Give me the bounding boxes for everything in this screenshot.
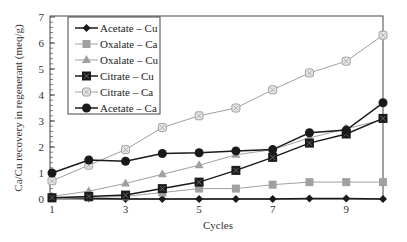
x-tick-label: 5 xyxy=(196,203,202,215)
line-chart: 01234567 13579 Acetate – CuOxalate – CaO… xyxy=(0,0,407,242)
y-tick-label: 5 xyxy=(39,63,45,75)
series-oxalate-cu xyxy=(48,115,388,200)
legend-label: Oxalate – Cu xyxy=(100,54,159,66)
x-tick-label: 9 xyxy=(343,203,349,215)
legend-label: Oxalate – Ca xyxy=(100,38,158,50)
legend-circle-x-light-icon xyxy=(83,88,91,96)
y-tick-label: 3 xyxy=(39,115,45,127)
y-tick-label: 0 xyxy=(39,193,45,205)
y-tick-label: 2 xyxy=(39,141,45,153)
x-tick-label: 1 xyxy=(49,203,55,215)
legend-item: Citrate – Cu xyxy=(75,70,154,82)
y-tick-label: 6 xyxy=(39,37,45,49)
legend-label: Acetate – Ca xyxy=(100,102,157,114)
y-tick-label: 4 xyxy=(39,89,45,101)
y-tick-label: 1 xyxy=(39,167,45,179)
legend-label: Acetate – Cu xyxy=(100,22,158,34)
y-tick-label: 7 xyxy=(39,11,45,23)
legend-item: Acetate – Ca xyxy=(75,102,157,114)
legend-circle-icon xyxy=(82,104,91,113)
series-acetate-cu xyxy=(48,194,387,203)
legend-label: Citrate – Ca xyxy=(100,86,153,98)
x-axis-title: Cycles xyxy=(203,219,233,231)
legend-square-x-icon xyxy=(82,72,91,81)
y-axis-title: Ca/Cu recovery in regenerant (meq/g) xyxy=(12,24,25,192)
legend-square-icon xyxy=(83,40,91,48)
x-tick-label: 3 xyxy=(123,203,129,215)
x-tick-label: 7 xyxy=(270,203,276,215)
legend-item: Citrate – Ca xyxy=(75,86,153,98)
legend-label: Citrate – Cu xyxy=(100,70,154,82)
legend: Acetate – CuOxalate – CaOxalate – CuCitr… xyxy=(68,17,160,114)
